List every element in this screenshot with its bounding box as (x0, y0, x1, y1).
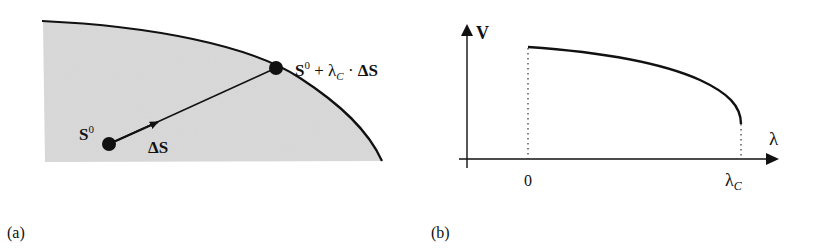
y-axis-arrowhead (461, 24, 473, 36)
panel-a: S0 ΔS S0 + λC · ΔS (a) (7, 21, 382, 242)
x-axis-label: λ (769, 128, 779, 149)
start-point-dot (102, 137, 116, 151)
figure-canvas: S0 ΔS S0 + λC · ΔS (a) V λ 0 λC (b) (0, 0, 816, 252)
direction-label: ΔS (148, 138, 168, 157)
panel-b: V λ 0 λC (b) (431, 23, 779, 242)
caption-b: (b) (431, 224, 450, 242)
boundary-point-label: S0 + λC · ΔS (295, 59, 378, 82)
x-axis-arrowhead (766, 153, 779, 165)
x-tick-lambda-c: λC (725, 170, 743, 193)
boundary-point-dot (269, 61, 283, 75)
x-tick-zero: 0 (524, 172, 532, 189)
feasible-region-texture (43, 21, 382, 162)
value-curve (528, 47, 741, 124)
caption-a: (a) (7, 224, 25, 242)
y-axis-label: V (476, 23, 489, 43)
